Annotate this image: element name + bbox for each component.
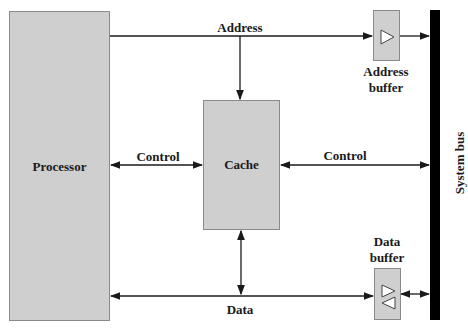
address-buffer-label: Address buffer [356, 64, 416, 96]
address-label: Address [200, 20, 280, 36]
buffer-triangle-icon [374, 11, 401, 62]
system-bus-bar [430, 10, 440, 320]
control-right-label: Control [305, 148, 385, 164]
data-label: Data [210, 302, 270, 318]
bidirectional-buffer-icon [375, 269, 402, 321]
processor-label: Processor [9, 159, 110, 175]
system-bus-label: System bus [452, 113, 468, 213]
data-buffer-box [374, 268, 401, 320]
control-left-label: Control [118, 149, 198, 165]
cache-label: Cache [203, 157, 280, 173]
data-buffer-label: Data buffer [357, 234, 417, 266]
address-buffer-box [373, 10, 400, 61]
